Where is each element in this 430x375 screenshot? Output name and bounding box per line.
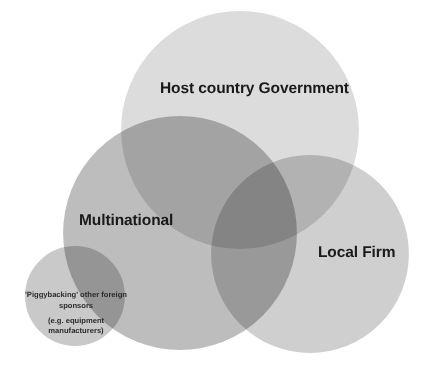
venn-svg: [0, 0, 430, 375]
circle-piggybacking: [24, 245, 126, 347]
venn-diagram: Host country Government Multinational Lo…: [0, 0, 430, 375]
